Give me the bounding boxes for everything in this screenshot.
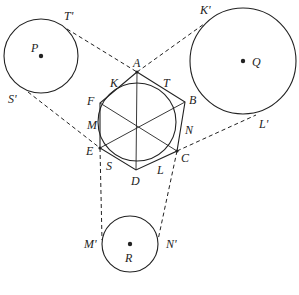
center-dot-q (241, 59, 245, 63)
label-m: M (86, 118, 98, 132)
label-m-prime: M' (83, 237, 97, 251)
label-n: N (184, 123, 194, 137)
tangent-line-e-mprime (100, 148, 102, 240)
center-dot-r (128, 242, 132, 246)
label-t: T (163, 76, 171, 90)
center-dot-p (39, 54, 43, 58)
geometry-diagram: A B C D E F K T N L S M P Q R T' S' K' L… (0, 0, 299, 295)
label-k: K (109, 76, 119, 90)
diagonal-ad (136, 72, 137, 170)
label-t-prime: T' (64, 9, 74, 23)
label-e: E (85, 144, 94, 158)
label-d: D (130, 174, 140, 188)
label-s-prime: S' (8, 92, 17, 106)
label-b: B (189, 93, 197, 107)
label-r: R (124, 251, 133, 265)
label-q: Q (252, 55, 261, 69)
label-c: C (181, 151, 190, 165)
label-k-prime: K' (199, 3, 211, 17)
label-f: F (86, 94, 95, 108)
label-l-prime: L' (258, 117, 269, 131)
tangent-line-a-kprime (137, 24, 204, 72)
label-s: S (106, 159, 112, 173)
diagonal-cf (100, 103, 177, 151)
vertex-dot-e (98, 146, 101, 149)
label-n-prime: N' (165, 237, 177, 251)
label-p: P (30, 41, 39, 55)
label-a: A (132, 56, 141, 70)
vertex-dot-c (175, 149, 178, 152)
vertex-dot-a (135, 70, 138, 73)
label-l: L (156, 163, 164, 177)
diagonal-be (100, 102, 185, 148)
